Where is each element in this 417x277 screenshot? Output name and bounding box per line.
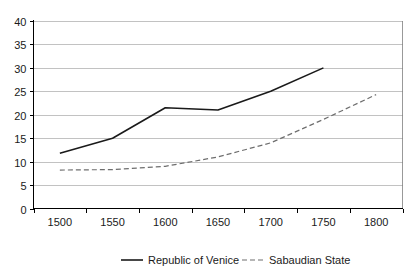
chart-legend: Republic of Venice Sabaudian State bbox=[121, 254, 350, 266]
y-tick-label: 30 bbox=[14, 63, 26, 75]
y-tick-label: 10 bbox=[14, 157, 26, 169]
x-tick-label: 1650 bbox=[206, 216, 230, 228]
x-tick-label: 1800 bbox=[364, 216, 388, 228]
y-tick-label: 5 bbox=[20, 180, 26, 192]
x-tick-label: 1550 bbox=[100, 216, 124, 228]
y-tick-label: 0 bbox=[20, 204, 26, 216]
y-tick-label: 25 bbox=[14, 86, 26, 98]
legend-label-sabaudian-state: Sabaudian State bbox=[269, 254, 350, 266]
x-tick-label: 1700 bbox=[258, 216, 282, 228]
y-tick-label: 35 bbox=[14, 39, 26, 51]
x-tick-label: 1600 bbox=[153, 216, 177, 228]
x-tick-label: 1500 bbox=[48, 216, 72, 228]
x-tick-label: 1750 bbox=[311, 216, 335, 228]
y-tick-label: 15 bbox=[14, 133, 26, 145]
line-chart: 0510152025303540 15001550160016501700175… bbox=[0, 0, 417, 277]
y-tick-label: 20 bbox=[14, 110, 26, 122]
chart-container: 0510152025303540 15001550160016501700175… bbox=[0, 0, 417, 277]
legend-label-republic-of-venice: Republic of Venice bbox=[148, 254, 239, 266]
y-tick-label: 40 bbox=[14, 16, 26, 28]
